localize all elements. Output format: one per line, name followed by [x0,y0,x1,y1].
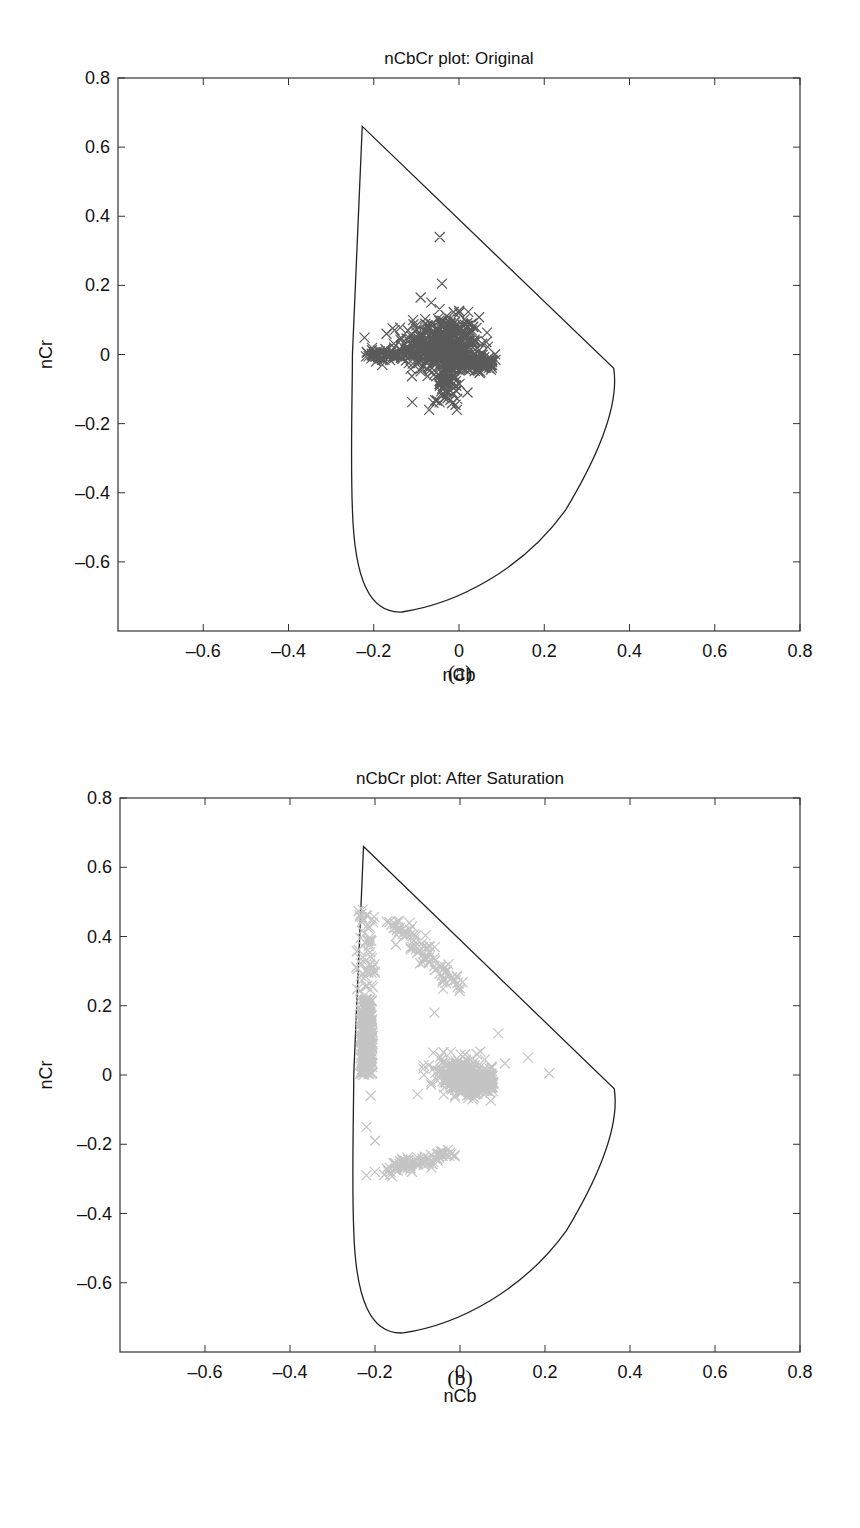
x-markers [359,232,500,415]
scatter-plot-after-saturation: nCbCr plot: After Saturation–0.6–0.4–0.2… [0,720,860,1420]
y-tick-label: 0.6 [85,137,110,157]
y-tick-label: 0.2 [85,275,110,295]
y-tick-label: 0.8 [87,788,112,808]
x-tick-label: –0.4 [271,641,306,661]
y-tick-label: 0.4 [85,206,110,226]
figure-a: nCbCr plot: Original–0.6–0.4–0.200.20.40… [0,0,860,720]
scatter-points [359,232,500,415]
chart-title: nCbCr plot: Original [384,49,533,68]
x-tick-label: 0.8 [787,1362,812,1382]
x-tick-label: –0.4 [272,1362,307,1382]
y-tick-label: –0.4 [77,1204,112,1224]
x-tick-label: 0.2 [532,1362,557,1382]
x-tick-label: 0.8 [787,641,812,661]
x-tick-label: –0.2 [357,1362,392,1382]
x-tick-label: –0.6 [187,1362,222,1382]
y-tick-label: –0.6 [75,552,110,572]
x-tick-label: 0.2 [532,641,557,661]
y-tick-label: 0.8 [85,68,110,88]
y-axis-label: nCr [36,1060,56,1089]
y-tick-label: –0.2 [75,414,110,434]
scatter-points [351,905,554,1182]
x-tick-label: 0.6 [702,641,727,661]
figure-b: nCbCr plot: After Saturation–0.6–0.4–0.2… [0,720,860,1420]
y-tick-label: –0.2 [77,1134,112,1154]
chart-title: nCbCr plot: After Saturation [356,769,564,788]
x-tick-label: 0 [454,641,464,661]
x-markers [351,905,554,1182]
x-tick-label: 0.6 [702,1362,727,1382]
caption-a: (a) [448,660,472,686]
x-tick-label: 0.4 [617,641,642,661]
y-tick-label: 0.2 [87,996,112,1016]
x-tick-label: –0.6 [186,641,221,661]
x-tick-label: –0.2 [356,641,391,661]
y-tick-label: 0.4 [87,927,112,947]
y-tick-label: 0 [100,345,110,365]
x-tick-label: 0.4 [617,1362,642,1382]
y-tick-label: –0.4 [75,483,110,503]
y-axis-label: nCr [36,340,56,369]
y-tick-label: 0.6 [87,857,112,877]
y-tick-label: 0 [102,1065,112,1085]
caption-b: (b) [447,1365,473,1391]
y-tick-label: –0.6 [77,1273,112,1293]
scatter-plot-original: nCbCr plot: Original–0.6–0.4–0.200.20.40… [0,0,860,720]
